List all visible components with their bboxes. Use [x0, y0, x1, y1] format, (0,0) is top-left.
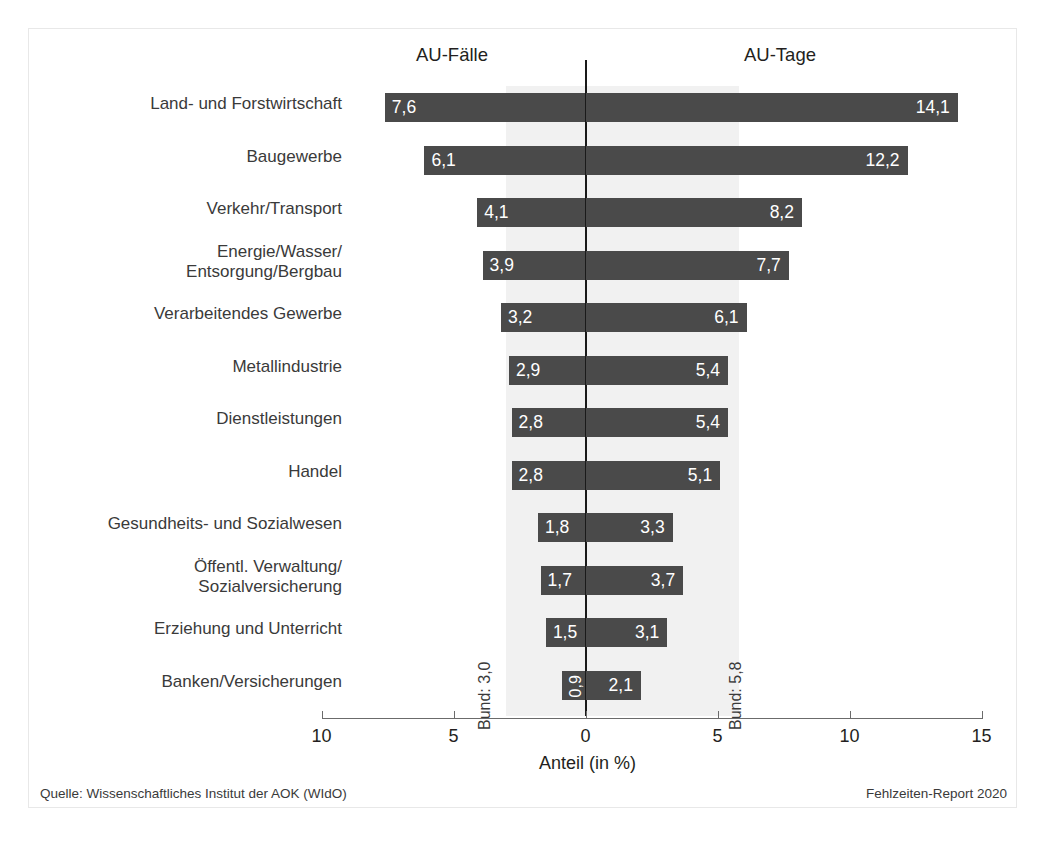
bar-value-au-tage: 2,1 [586, 671, 633, 700]
chart-row: Energie/Wasser/ Entsorgung/Bergbau3,97,7 [0, 244, 1047, 288]
x-axis-title: Anteil (in %) [0, 753, 1047, 774]
bar-value-au-faelle: 1,5 [553, 618, 577, 647]
axis-tick [850, 711, 851, 719]
bar-value-au-tage: 7,7 [586, 251, 781, 280]
column-heading-au-faelle: AU-Fälle [416, 44, 488, 66]
axis-tick [454, 711, 455, 719]
axis-tick [322, 711, 323, 719]
chart-row: Öffentl. Verwaltung/ Sozialversicherung1… [0, 559, 1047, 603]
axis-tick-label: 10 [839, 726, 859, 747]
category-label: Verarbeitendes Gewerbe [12, 304, 342, 324]
bar-value-au-faelle: 3,2 [508, 303, 532, 332]
category-label: Handel [12, 462, 342, 482]
category-label: Verkehr/Transport [12, 199, 342, 219]
category-label: Metallindustrie [12, 357, 342, 377]
x-axis-title-text: Anteil (in %) [539, 753, 636, 773]
axis-tick-label: 5 [712, 726, 722, 747]
category-label: Öffentl. Verwaltung/ Sozialversicherung [12, 557, 342, 597]
bar-value-au-faelle: 4,1 [484, 198, 508, 227]
bar-value-au-faelle: 1,7 [548, 566, 572, 595]
footer-report: Fehlzeiten-Report 2020 [866, 786, 1007, 801]
bar-value-au-faelle: 2,9 [516, 356, 540, 385]
bar-value-au-tage: 5,4 [586, 408, 721, 437]
chart-row: Verkehr/Transport4,18,2 [0, 191, 1047, 235]
bar-value-au-faelle: 1,8 [545, 513, 569, 542]
bar-value-au-faelle: 2,8 [519, 408, 543, 437]
reference-label-au-tage: Bund: 5,8 [727, 662, 745, 731]
bar-value-au-faelle: 6,1 [431, 146, 455, 175]
chart-row: Dienstleistungen2,85,4 [0, 401, 1047, 445]
axis-tick-label: 0 [580, 726, 590, 747]
column-heading-au-tage: AU-Tage [744, 44, 816, 66]
bar-value-au-faelle: 7,6 [392, 93, 416, 122]
chart-row: Erziehung und Unterricht1,53,1 [0, 611, 1047, 655]
chart-row: Land- und Forstwirtschaft7,614,1 [0, 86, 1047, 130]
axis-tick-label: 15 [971, 726, 991, 747]
axis-tick [718, 711, 719, 719]
bar-value-au-tage: 3,1 [586, 618, 660, 647]
chart-row: Metallindustrie2,95,4 [0, 349, 1047, 393]
category-label: Dienstleistungen [12, 409, 342, 429]
bar-value-au-tage: 14,1 [586, 93, 950, 122]
chart-row: Verarbeitendes Gewerbe3,26,1 [0, 296, 1047, 340]
chart-row: Banken/Versicherungen0,92,1 [0, 664, 1047, 708]
category-label: Baugewerbe [12, 147, 342, 167]
category-label: Banken/Versicherungen [12, 672, 342, 692]
category-label: Erziehung und Unterricht [12, 619, 342, 639]
bar-value-au-tage: 5,4 [586, 356, 721, 385]
bar-value-au-tage: 8,2 [586, 198, 794, 227]
bar-value-au-faelle: 3,9 [490, 251, 514, 280]
bar-value-au-tage: 3,7 [586, 566, 676, 595]
chart-row: Handel2,85,1 [0, 454, 1047, 498]
category-label: Energie/Wasser/ Entsorgung/Bergbau [12, 242, 342, 282]
bar-value-au-tage: 5,1 [586, 461, 713, 490]
bar-value-au-tage: 6,1 [586, 303, 739, 332]
category-label: Gesundheits- und Sozialwesen [12, 514, 342, 534]
axis-tick [586, 711, 587, 719]
reference-label-au-faelle: Bund: 3,0 [476, 662, 494, 731]
bar-value-au-faelle: 2,8 [519, 461, 543, 490]
bar-value-au-tage: 12,2 [586, 146, 900, 175]
chart-row: Gesundheits- und Sozialwesen1,83,3 [0, 506, 1047, 550]
bar-value-au-tage: 3,3 [586, 513, 665, 542]
diverging-bar-chart: AU-Fälle AU-Tage Land- und Forstwirtscha… [0, 0, 1047, 849]
axis-tick [982, 711, 983, 719]
axis-tick-label: 5 [448, 726, 458, 747]
footer-source: Quelle: Wissenschaftliches Institut der … [40, 786, 347, 801]
category-label: Land- und Forstwirtschaft [12, 94, 342, 114]
axis-tick-label: 10 [311, 726, 331, 747]
x-axis-line [322, 718, 982, 719]
chart-row: Baugewerbe6,112,2 [0, 139, 1047, 183]
